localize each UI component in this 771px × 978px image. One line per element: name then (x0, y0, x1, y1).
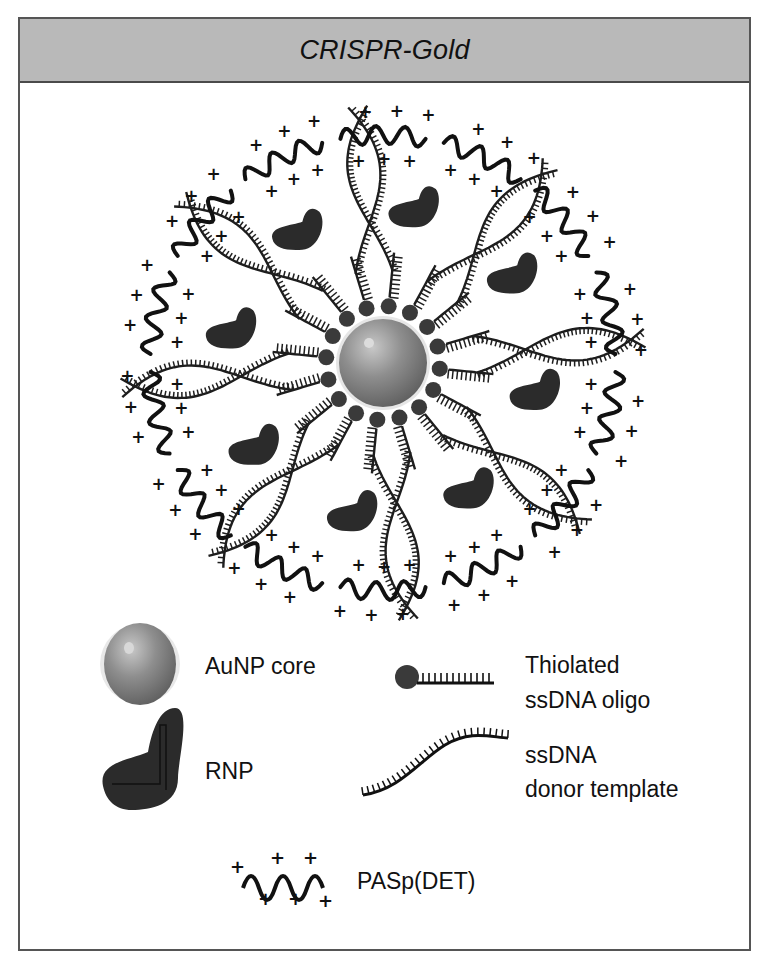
svg-text:+: + (377, 557, 391, 577)
svg-text:+: + (214, 480, 228, 500)
thiol-oligo-icon (395, 665, 494, 689)
svg-text:+: + (249, 135, 263, 155)
legend-label-oligo-2: ssDNA oligo (525, 685, 650, 715)
svg-text:+: + (631, 391, 645, 411)
svg-text:+: + (573, 284, 587, 304)
svg-text:+: + (170, 332, 184, 352)
svg-text:+: + (231, 207, 245, 227)
svg-text:+: + (614, 451, 628, 471)
svg-text:+: + (270, 847, 285, 868)
svg-text:+: + (188, 524, 202, 544)
svg-text:+: + (120, 366, 134, 386)
svg-text:+: + (467, 169, 481, 189)
svg-text:+: + (570, 520, 584, 540)
svg-text:+: + (174, 398, 188, 418)
svg-text:+: + (123, 315, 137, 335)
svg-text:+: + (580, 398, 594, 418)
svg-text:+: + (200, 460, 214, 480)
svg-text:+: + (287, 537, 301, 557)
svg-text:+: + (603, 232, 617, 252)
legend-label-aunp: AuNP core (205, 651, 316, 681)
svg-text:+: + (288, 888, 303, 909)
svg-text:+: + (527, 148, 541, 168)
svg-text:+: + (307, 111, 321, 131)
svg-text:+: + (230, 856, 245, 877)
svg-text:+: + (573, 422, 587, 442)
svg-text:+: + (227, 558, 241, 578)
svg-text:+: + (547, 542, 561, 562)
svg-text:+: + (584, 374, 598, 394)
svg-text:+: + (165, 211, 179, 231)
svg-text:+: + (277, 121, 291, 141)
svg-text:+: + (258, 888, 273, 909)
svg-text:+: + (447, 595, 461, 615)
svg-text:+: + (554, 246, 568, 266)
svg-text:+: + (351, 555, 365, 575)
svg-text:+: + (540, 480, 554, 500)
svg-text:+: + (170, 374, 184, 394)
svg-text:+: + (214, 226, 228, 246)
svg-text:+: + (174, 308, 188, 328)
svg-text:+: + (444, 546, 458, 566)
sphere-icon (100, 623, 180, 705)
svg-text:+: + (505, 571, 519, 591)
svg-text:+: + (584, 332, 598, 352)
svg-text:+: + (310, 160, 324, 180)
svg-text:+: + (630, 309, 644, 329)
svg-text:+: + (554, 460, 568, 480)
svg-text:+: + (477, 585, 491, 605)
legend-label-oligo-1: Thiolated (525, 650, 620, 680)
svg-text:+: + (421, 105, 435, 125)
svg-text:+: + (140, 255, 154, 275)
svg-text:+: + (333, 601, 347, 621)
svg-text:+: + (184, 186, 198, 206)
svg-text:+: + (396, 604, 410, 624)
svg-text:+: + (490, 525, 504, 545)
nanoparticle-assembly: ++++++++++++++++++++++++++++++++++++++++… (120, 101, 648, 624)
svg-text:+: + (523, 207, 537, 227)
svg-text:+: + (200, 246, 214, 266)
svg-text:+: + (467, 537, 481, 557)
crispr-gold-diagram: ++++++++++++++++++++++++++++++++++++++++… (0, 0, 771, 978)
svg-text:+: + (364, 605, 378, 625)
svg-text:+: + (589, 495, 603, 515)
legend-label-rnp: RNP (205, 756, 254, 786)
svg-text:+: + (500, 132, 514, 152)
svg-text:+: + (403, 555, 417, 575)
svg-text:+: + (130, 285, 144, 305)
svg-text:+: + (580, 308, 594, 328)
svg-text:+: + (490, 181, 504, 201)
svg-text:+: + (566, 182, 580, 202)
svg-text:+: + (283, 587, 297, 607)
svg-text:+: + (540, 226, 554, 246)
svg-text:+: + (254, 574, 268, 594)
svg-text:+: + (231, 499, 245, 519)
svg-text:+: + (358, 102, 372, 122)
svg-text:+: + (523, 499, 537, 519)
svg-text:+: + (634, 340, 648, 360)
svg-text:+: + (377, 149, 391, 169)
svg-text:+: + (351, 151, 365, 171)
svg-text:+: + (310, 546, 324, 566)
svg-text:+: + (207, 164, 221, 184)
svg-text:+: + (444, 160, 458, 180)
svg-text:+: + (287, 169, 301, 189)
svg-text:+: + (264, 181, 278, 201)
svg-text:+: + (403, 151, 417, 171)
donor-strand-icon (362, 728, 508, 795)
cationic-polymer-icon: +++ +++ (230, 847, 333, 911)
legend-label-donor-1: ssDNA (525, 740, 597, 770)
svg-text:+: + (151, 474, 165, 494)
svg-text:+: + (264, 525, 278, 545)
svg-text:+: + (390, 101, 404, 121)
svg-text:+: + (624, 421, 638, 441)
svg-text:+: + (586, 206, 600, 226)
rnp-blob-icon (102, 708, 183, 810)
svg-text:+: + (181, 422, 195, 442)
svg-text:+: + (303, 847, 318, 868)
svg-text:+: + (168, 500, 182, 520)
svg-text:+: + (318, 890, 333, 911)
svg-text:+: + (124, 397, 138, 417)
legend-label-donor-2: donor template (525, 774, 678, 804)
svg-text:+: + (623, 279, 637, 299)
